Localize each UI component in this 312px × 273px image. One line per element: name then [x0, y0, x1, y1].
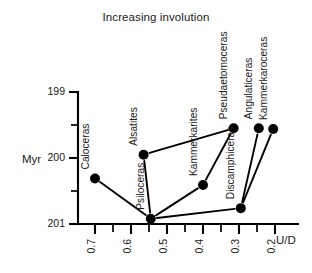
data-point	[254, 123, 264, 133]
lineage-line	[242, 134, 257, 202]
axis-titles: MyrU/D	[22, 153, 296, 247]
x-axis-title: U/D	[276, 234, 296, 246]
data-point	[198, 180, 208, 190]
taxon-label: Psiloceras	[135, 163, 146, 210]
taxon-labels: CalocerasAlsatitesPsilocerasKammerkarite…	[80, 32, 269, 210]
chart-figure: Increasing involution 199200201 0.70.60.…	[0, 0, 312, 273]
data-point	[236, 203, 246, 213]
data-points	[90, 123, 278, 223]
x-axis-ticks	[95, 224, 275, 234]
taxon-label: Kammerkaroceras	[258, 37, 269, 120]
data-point	[146, 214, 156, 224]
taxon-label: Kammerkarites	[188, 108, 199, 177]
x-tick-label: 0.4	[193, 239, 205, 254]
data-point	[268, 124, 278, 134]
y-axis-ticks	[69, 92, 78, 224]
y-tick-label: 199	[47, 85, 65, 97]
x-tick-label: 0.3	[229, 239, 241, 254]
taxon-label: Alsatites	[128, 107, 139, 146]
taxon-label: Angulaticeras	[243, 58, 254, 120]
lineage-line	[157, 209, 235, 218]
y-axis-title: Myr	[22, 153, 41, 165]
scatter-plot: 199200201 0.70.60.50.40.30.2 CalocerasAl…	[0, 0, 312, 273]
taxon-label: Discamphiceras	[225, 127, 236, 199]
y-tick-label: 201	[47, 217, 65, 229]
y-axis-tick-labels: 199200201	[47, 85, 65, 229]
data-point	[90, 173, 100, 183]
y-tick-label: 200	[47, 151, 65, 163]
data-point	[139, 150, 149, 160]
x-tick-label: 0.7	[85, 239, 97, 254]
x-tick-label: 0.5	[157, 239, 169, 254]
lineage-line	[243, 135, 271, 203]
taxon-label: Pseudaetomoceras	[218, 32, 229, 120]
lineage-line	[156, 188, 198, 215]
x-axis-tick-labels: 0.70.60.50.40.30.2	[85, 239, 277, 254]
taxon-label: Caloceras	[80, 124, 91, 170]
lineage-connections	[100, 130, 271, 218]
x-tick-label: 0.6	[121, 239, 133, 254]
